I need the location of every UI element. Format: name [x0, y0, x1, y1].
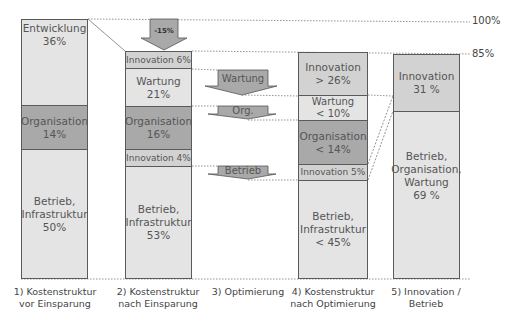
segment-entwicklung: Entwicklung 36%: [21, 19, 88, 106]
segment-organisation: Organisation < 14%: [298, 120, 368, 165]
segment-innovation: Innovation 31 %: [393, 54, 460, 112]
caption-4: 4) Kostenstruktur nach Optimierung: [283, 286, 383, 310]
label-85: 85%: [472, 48, 494, 59]
segment-betrieb-organisation-wartung: Betrieb, Organisation, Wartung 69 %: [393, 111, 460, 279]
wartung-arrow-label: Wartung: [218, 73, 268, 84]
segment-betrieb: Betrieb, Infrastruktur 50%: [21, 149, 88, 279]
segment-organisation: Organisation 16%: [125, 106, 192, 150]
caption-1: 1) Kostenstruktur vor Einsparung: [5, 286, 105, 310]
segment-betrieb: Betrieb, Infrastruktur < 45%: [298, 180, 368, 279]
org-arrow-label: Org.: [218, 105, 268, 116]
segment-innovation-6: Innovation 6%: [125, 51, 192, 69]
segment-betrieb: Betrieb, Infrastruktur 53%: [125, 166, 192, 279]
reduction-label: -15%: [150, 27, 178, 35]
segment-wartung: Wartung < 10%: [298, 95, 368, 121]
segment-innovation-4: Innovation 4%: [125, 149, 192, 167]
segment-organisation: Organisation 14%: [21, 105, 88, 150]
caption-5: 5) Innovation / Betrieb: [376, 286, 476, 310]
segment-innovation-5: Innovation 5%: [298, 164, 368, 181]
segment-innovation: Innovation > 26%: [298, 52, 368, 96]
segment-wartung: Wartung 21%: [125, 68, 192, 107]
betrieb-arrow-label: Betrieb: [218, 165, 268, 176]
caption-2: 2) Kostenstruktur nach Einsparung: [108, 286, 208, 310]
label-100: 100%: [472, 15, 501, 26]
